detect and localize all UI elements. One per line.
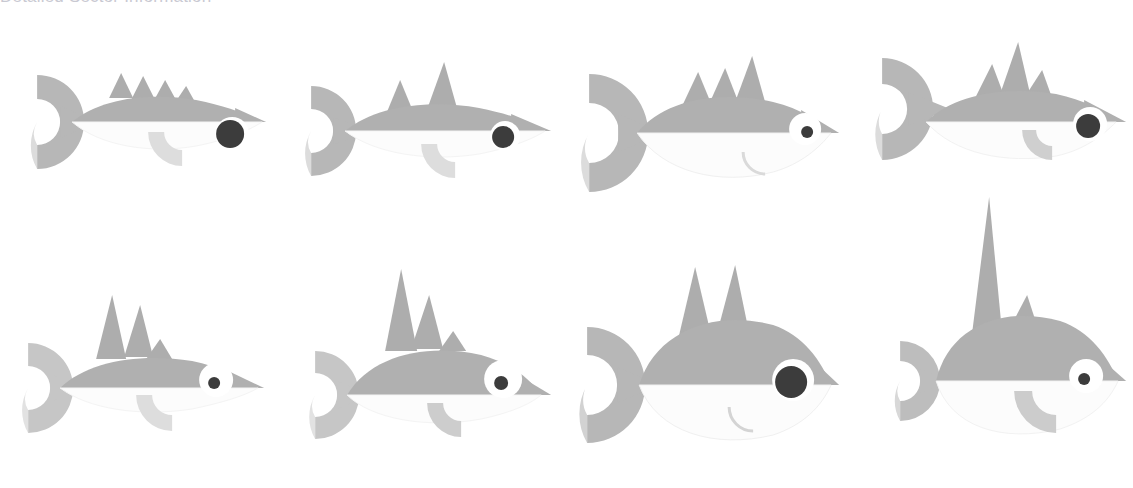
page-title: Detailed Sector Information	[0, 0, 1133, 7]
eye	[484, 360, 522, 398]
fish-figure-8	[850, 243, 1133, 488]
fish-figure-7	[567, 243, 850, 488]
eye	[772, 359, 814, 401]
tail-fin	[875, 58, 950, 160]
fish-figure-grid	[0, 14, 1133, 488]
eye	[215, 117, 249, 151]
fish-figure-5	[0, 243, 283, 488]
fish-figure-3	[567, 14, 850, 243]
eye	[1069, 359, 1103, 393]
eye	[490, 121, 520, 151]
dorsal-fins	[976, 42, 1052, 98]
fish-figure-2	[283, 14, 566, 243]
dorsal-fins	[385, 269, 466, 351]
eye	[1073, 107, 1107, 141]
fish-figure-4	[850, 14, 1133, 243]
dorsal-fins	[96, 295, 172, 359]
fish-figure-1	[0, 14, 283, 243]
eye	[789, 113, 821, 145]
fish-figure-6	[283, 243, 566, 488]
eye	[199, 363, 233, 397]
